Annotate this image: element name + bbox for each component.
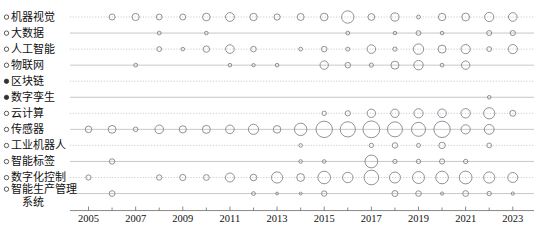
bubble-point bbox=[417, 143, 421, 147]
bubble-point bbox=[368, 14, 375, 21]
y-axis-marker-8 bbox=[4, 127, 8, 131]
y-axis-label: 大数据 bbox=[11, 26, 44, 39]
y-axis-label: 智能生产管理 bbox=[11, 182, 77, 195]
y-axis-label: 工业机器人 bbox=[11, 138, 66, 151]
x-axis-tick-label: 2009 bbox=[172, 213, 193, 224]
y-axis-label: 云计算 bbox=[11, 106, 44, 119]
x-axis-tick-label: 2013 bbox=[267, 213, 288, 224]
y-axis-label: 传感器 bbox=[11, 123, 44, 135]
bubble-point bbox=[364, 170, 379, 185]
y-axis-marker-5 bbox=[4, 79, 8, 83]
x-axis-tick-label: 2023 bbox=[502, 213, 523, 224]
bubble-layer bbox=[85, 11, 518, 197]
x-axis-tick-label: 2019 bbox=[408, 213, 429, 224]
x-axis-tick-label: 2015 bbox=[314, 213, 335, 224]
bubble-point bbox=[417, 15, 421, 19]
bubble-point bbox=[203, 46, 209, 52]
y-axis-label: 物联网 bbox=[11, 58, 44, 71]
bubble-point bbox=[367, 109, 375, 117]
x-axis-tick-label: 2005 bbox=[78, 213, 99, 224]
y-axis-label: 机器视觉 bbox=[11, 10, 55, 23]
y-axis-marker-6 bbox=[4, 95, 8, 99]
bubble-chart-figure: 机器视觉大数据人工智能物联网区块链数字孪生云计算传感器工业机器人智能标签数字化控… bbox=[0, 0, 540, 237]
bubble-point bbox=[438, 13, 445, 20]
grid-layer bbox=[70, 17, 534, 194]
y-axis-marker-3 bbox=[4, 47, 8, 51]
y-axis-marker-2 bbox=[4, 31, 8, 35]
y-axis-label-line2: 系统 bbox=[22, 196, 44, 208]
bubble-point bbox=[413, 172, 425, 184]
y-axis-marker-10 bbox=[4, 159, 8, 163]
x-axis-tick-label: 2011 bbox=[220, 213, 241, 224]
y-axis-label: 区块链 bbox=[11, 74, 44, 87]
bubble-point bbox=[438, 109, 447, 118]
y-axis-label: 数字孪生 bbox=[11, 90, 55, 103]
bubble-point bbox=[250, 13, 257, 20]
x-axis-tick-label: 2021 bbox=[455, 213, 476, 224]
y-axis-marker-12 bbox=[4, 187, 8, 191]
bubble-point bbox=[438, 45, 446, 53]
y-axis-marker-4 bbox=[4, 63, 8, 67]
bubble-point bbox=[320, 13, 328, 21]
y-axis-marker-11 bbox=[4, 175, 8, 179]
chart-canvas: 机器视觉大数据人工智能物联网区块链数字孪生云计算传感器工业机器人智能标签数字化控… bbox=[0, 0, 540, 237]
y-axis-marker-7 bbox=[4, 111, 8, 115]
y-axis-label: 数字化控制 bbox=[11, 170, 66, 183]
bubble-point bbox=[203, 13, 211, 21]
y-axis-label: 智能标签 bbox=[11, 154, 55, 167]
x-axis-layer: 2005200720092011201320152017201920212023 bbox=[70, 207, 534, 224]
x-axis-tick-label: 2017 bbox=[361, 213, 382, 224]
x-axis-tick-label: 2007 bbox=[125, 213, 146, 224]
y-axis-marker-9 bbox=[4, 143, 8, 147]
y-axis-label-layer: 机器视觉大数据人工智能物联网区块链数字孪生云计算传感器工业机器人智能标签数字化控… bbox=[4, 10, 77, 208]
y-axis-marker-1 bbox=[4, 15, 8, 19]
bubble-point bbox=[367, 45, 376, 54]
bubble-point bbox=[485, 12, 494, 21]
y-axis-label: 人工智能 bbox=[11, 42, 55, 55]
